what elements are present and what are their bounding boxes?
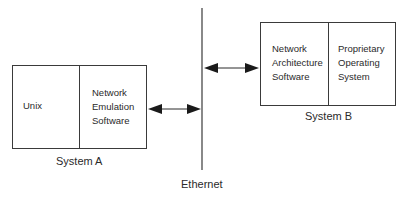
system-b-left-cell: Network Architecture Software [272,42,323,84]
system-a-label: System A [56,155,102,167]
system-b-divider [328,23,329,105]
system-a-left-cell: Unix [23,99,42,113]
ethernet-label: Ethernet [181,178,223,190]
system-a-right-cell: Network Emulation Software [92,86,134,128]
system-a-box: Unix Network Emulation Software [12,65,147,149]
system-b-box: Network Architecture Software Proprietar… [260,22,396,106]
bidirectional-arrow-b [204,63,259,73]
system-a-divider [79,66,80,148]
bidirectional-arrow-a [148,104,201,114]
system-b-label: System B [305,110,352,122]
system-b-right-cell: Proprietary Operating System [338,42,384,84]
